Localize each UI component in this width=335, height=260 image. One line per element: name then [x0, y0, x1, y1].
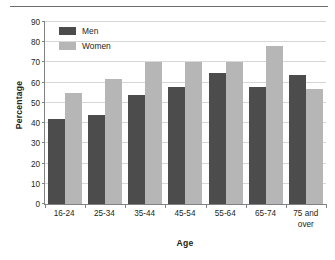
x-tick-label: 16-24: [44, 209, 84, 230]
y-tick-label: 90: [31, 18, 40, 27]
x-tick-mark: [125, 204, 126, 208]
bar-men-35-44: [128, 95, 145, 204]
legend-swatch-women: [59, 42, 76, 50]
legend-label-men: Men: [82, 26, 98, 36]
bar-men-65-74: [249, 87, 266, 204]
bar-women-45-54: [185, 62, 202, 204]
top-divider-rule: [10, 6, 328, 7]
chart-legend: Men Women: [59, 26, 111, 56]
bar-women-65-74: [266, 46, 283, 204]
x-tick-mark: [45, 204, 46, 208]
x-tick-mark: [206, 204, 207, 208]
legend-swatch-men: [59, 27, 76, 35]
legend-item-women: Women: [59, 41, 111, 51]
bar-women-25-34: [105, 79, 122, 204]
bar-chart-figure: Percentage 0102030405060708090 Men Women…: [0, 0, 335, 260]
x-tick-mark: [286, 204, 287, 208]
y-tick-label: 70: [31, 58, 40, 67]
x-tick-label: 65-74: [245, 209, 285, 230]
x-tick-label: 55-64: [205, 209, 245, 230]
x-tick-label: 25-34: [84, 209, 124, 230]
bar-women-35-44: [145, 62, 162, 204]
bar-group: [286, 22, 326, 204]
bar-men-45-54: [168, 87, 185, 204]
x-axis-tick-labels: 16-2425-3435-4445-5455-6465-7475 andover: [44, 209, 326, 230]
bar-men-16-24: [48, 119, 65, 204]
y-tick-label: 30: [31, 139, 40, 148]
plot-area: 0102030405060708090 Men Women: [44, 22, 326, 205]
bar-men-25-34: [88, 115, 105, 204]
legend-item-men: Men: [59, 26, 111, 36]
x-tick-mark: [165, 204, 166, 208]
bar-women-55-64: [226, 62, 243, 204]
x-tick-label: 35-44: [125, 209, 165, 230]
y-tick-label: 50: [31, 98, 40, 107]
bar-women-75-and-over: [306, 89, 323, 204]
bar-group: [125, 22, 165, 204]
x-tick-label: 45-54: [165, 209, 205, 230]
y-tick-label: 0: [35, 200, 40, 209]
y-tick-label: 80: [31, 38, 40, 47]
bar-group: [206, 22, 246, 204]
x-tick-mark: [246, 204, 247, 208]
y-tick-label: 60: [31, 78, 40, 87]
y-axis-title: Percentage: [14, 60, 24, 150]
bar-group: [165, 22, 205, 204]
legend-label-women: Women: [82, 41, 111, 51]
x-tick-mark: [326, 204, 327, 208]
y-tick-label: 10: [31, 179, 40, 188]
bar-men-75-and-over: [289, 75, 306, 204]
x-axis-title: Age: [44, 238, 326, 248]
y-tick-label: 20: [31, 159, 40, 168]
x-tick-label: 75 andover: [286, 209, 326, 230]
bar-men-55-64: [209, 73, 226, 204]
bar-women-16-24: [65, 93, 82, 204]
y-tick-label: 40: [31, 119, 40, 128]
bar-group: [246, 22, 286, 204]
x-tick-mark: [85, 204, 86, 208]
